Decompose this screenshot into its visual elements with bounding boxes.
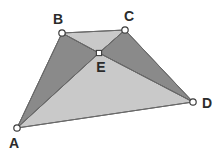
vertex-marker-E[interactable] xyxy=(96,50,101,55)
geometry-figure-svg: A B C D E xyxy=(0,0,222,154)
vertex-marker-B[interactable] xyxy=(59,30,65,36)
vertex-marker-C[interactable] xyxy=(122,27,128,33)
geometry-figure-canvas: A B C D E xyxy=(0,0,222,154)
vertex-label-D: D xyxy=(202,95,212,111)
vertex-marker-A[interactable] xyxy=(14,125,20,131)
vertex-label-C: C xyxy=(124,8,134,24)
vertex-label-A: A xyxy=(9,135,19,151)
vertex-label-E: E xyxy=(96,59,105,75)
vertex-label-B: B xyxy=(53,11,63,27)
vertex-marker-D[interactable] xyxy=(190,99,196,105)
